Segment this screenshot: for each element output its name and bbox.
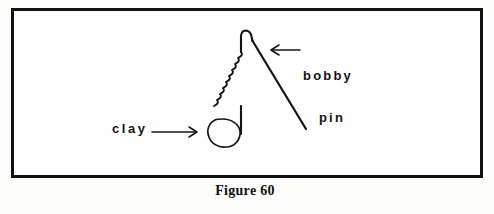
label-clay: clay bbox=[112, 121, 148, 136]
bobby-pin-left-leg-crimped bbox=[214, 52, 242, 106]
label-bobby-pin: bobby pin bbox=[303, 41, 353, 153]
clay-blob bbox=[208, 119, 240, 147]
figure-caption: Figure 60 bbox=[0, 183, 494, 199]
label-bobby-pin-line1: bobby bbox=[303, 69, 353, 83]
bobby-pin-arch bbox=[241, 31, 253, 53]
figure-drawing bbox=[0, 0, 494, 214]
bobby-pin-right-leg bbox=[252, 40, 306, 129]
label-bobby-pin-line2: pin bbox=[311, 111, 353, 125]
figure-caption-text: Figure 60 bbox=[215, 183, 275, 199]
figure-page: clay bobby pin Figure 60 bbox=[0, 0, 494, 214]
